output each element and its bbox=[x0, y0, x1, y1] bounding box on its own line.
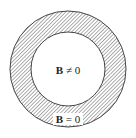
inner-region-label: B ≠ 0 bbox=[56, 64, 81, 76]
outer-region-label: B = 0 bbox=[56, 113, 81, 125]
annulus-diagram: B ≠ 0 B = 0 bbox=[0, 0, 136, 138]
